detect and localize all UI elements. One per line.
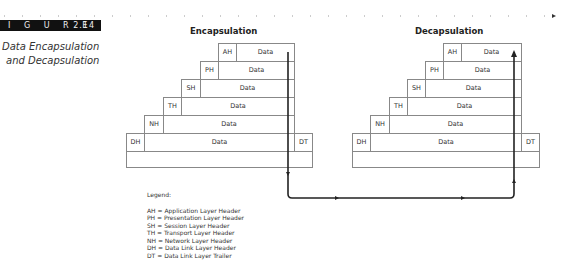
arrow-right-icon (461, 196, 465, 200)
arrow-down-icon (286, 172, 290, 176)
legend-item: DT = Data Link Layer Trailer (147, 252, 244, 260)
arrow-right-icon (335, 196, 339, 200)
legend: Legend: AH = Application Layer Header PH… (147, 191, 244, 259)
legend-item: DH = Data Link Layer Header (147, 244, 244, 252)
arrow-up-icon (511, 50, 517, 57)
legend-item: AH = Application Layer Header (147, 207, 244, 215)
legend-title: Legend: (147, 191, 244, 199)
flow-arrow (0, 0, 567, 271)
legend-item: SH = Session Layer Header (147, 222, 244, 230)
legend-item: PH = Presentation Layer Header (147, 214, 244, 222)
legend-item: NH = Network Layer Header (147, 237, 244, 245)
arrow-up-icon (512, 179, 516, 183)
legend-item: TH = Transport Layer Header (147, 229, 244, 237)
